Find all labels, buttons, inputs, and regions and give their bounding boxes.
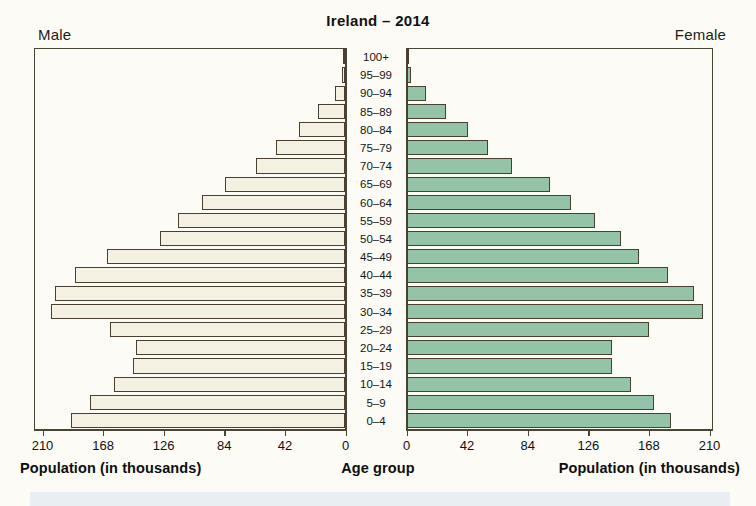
male-axis-tick-label: 168 xyxy=(92,438,114,453)
male-axis-tick xyxy=(164,430,165,436)
male-bar xyxy=(75,267,345,282)
age-group-label: 75–79 xyxy=(347,139,405,157)
male-bar xyxy=(225,177,345,192)
female-axis-tick xyxy=(710,430,711,436)
age-group-label: 30–34 xyxy=(347,303,405,321)
population-pyramid-chart: Male Female Ireland – 2014 100+95–9990–9… xyxy=(0,0,756,506)
male-bar xyxy=(55,286,345,301)
female-axis-tick xyxy=(407,430,408,436)
male-bar xyxy=(133,358,345,373)
male-bar xyxy=(342,67,345,82)
age-group-label: 5–9 xyxy=(347,394,405,412)
male-axis-tick xyxy=(224,430,225,436)
female-axis-tick-label: 0 xyxy=(403,438,410,453)
age-group-caption: Age group xyxy=(341,460,414,476)
male-bar xyxy=(343,49,345,64)
female-bar xyxy=(407,104,446,119)
male-bar xyxy=(256,158,345,173)
male-bar xyxy=(51,304,345,319)
chart-title: Ireland – 2014 xyxy=(0,12,756,29)
age-group-label: 95–99 xyxy=(347,66,405,84)
male-axis-tick xyxy=(285,430,286,436)
male-bar xyxy=(202,195,345,210)
female-bar xyxy=(407,304,703,319)
female-bar xyxy=(407,358,612,373)
age-group-label: 20–24 xyxy=(347,339,405,357)
male-bar xyxy=(136,340,345,355)
age-group-label: 0–4 xyxy=(347,412,405,430)
male-bar xyxy=(107,249,345,264)
male-bar xyxy=(90,395,345,410)
male-axis-tick-label: 210 xyxy=(32,438,54,453)
male-bar xyxy=(110,322,345,337)
male-axis-tick-label: 126 xyxy=(153,438,175,453)
female-axis-tick xyxy=(588,430,589,436)
scan-edge-strip xyxy=(30,492,730,506)
age-group-label: 65–69 xyxy=(347,175,405,193)
age-group-label: 50–54 xyxy=(347,230,405,248)
male-bar xyxy=(276,140,345,155)
male-axis-tick xyxy=(103,430,104,436)
male-axis-tick xyxy=(346,430,347,436)
female-bar xyxy=(407,249,639,264)
age-group-label: 90–94 xyxy=(347,84,405,102)
female-bar xyxy=(407,286,694,301)
female-x-axis-line xyxy=(406,430,713,431)
age-group-label: 40–44 xyxy=(347,266,405,284)
female-axis-tick xyxy=(528,430,529,436)
female-axis-tick-label: 84 xyxy=(520,438,534,453)
female-axis-caption: Population (in thousands) xyxy=(559,460,740,476)
female-bar xyxy=(407,322,649,337)
age-group-label: 100+ xyxy=(347,48,405,66)
male-bar xyxy=(299,122,345,137)
female-bar xyxy=(407,195,571,210)
male-axis-tick xyxy=(43,430,44,436)
female-bar xyxy=(407,413,671,428)
male-bar xyxy=(71,413,345,428)
age-group-label: 60–64 xyxy=(347,194,405,212)
male-bar xyxy=(160,231,345,246)
age-group-label: 70–74 xyxy=(347,157,405,175)
age-group-label: 35–39 xyxy=(347,284,405,302)
female-bar xyxy=(407,267,668,282)
female-bar xyxy=(407,49,409,64)
age-group-label: 80–84 xyxy=(347,121,405,139)
female-bar xyxy=(407,86,426,101)
male-axis-caption: Population (in thousands) xyxy=(20,460,201,476)
male-axis-tick-label: 0 xyxy=(342,438,349,453)
male-bar xyxy=(318,104,345,119)
female-axis-tick xyxy=(649,430,650,436)
male-axis-tick-label: 42 xyxy=(278,438,292,453)
female-bar xyxy=(407,231,621,246)
female-bar xyxy=(407,158,512,173)
female-bar xyxy=(407,395,654,410)
female-axis-tick-label: 42 xyxy=(460,438,474,453)
male-x-axis-line xyxy=(34,430,346,431)
female-bar xyxy=(407,122,468,137)
age-group-label: 10–14 xyxy=(347,375,405,393)
male-bar xyxy=(178,213,345,228)
female-bar xyxy=(407,377,631,392)
female-axis-tick-label: 210 xyxy=(699,438,721,453)
female-bar xyxy=(407,213,595,228)
age-group-axis: 100+95–9990–9485–8980–8475–7970–7465–696… xyxy=(347,48,405,430)
age-group-label: 15–19 xyxy=(347,357,405,375)
female-axis-tick-label: 168 xyxy=(638,438,660,453)
female-axis-tick-label: 126 xyxy=(577,438,599,453)
male-bar xyxy=(114,377,345,392)
age-group-label: 45–49 xyxy=(347,248,405,266)
age-group-label: 55–59 xyxy=(347,212,405,230)
female-bar xyxy=(407,140,488,155)
female-bar xyxy=(407,340,612,355)
male-axis-tick-label: 84 xyxy=(217,438,231,453)
female-axis-tick xyxy=(467,430,468,436)
age-group-label: 85–89 xyxy=(347,103,405,121)
male-bar xyxy=(335,86,345,101)
age-group-label: 25–29 xyxy=(347,321,405,339)
female-bar xyxy=(407,177,550,192)
female-bar xyxy=(407,67,411,82)
